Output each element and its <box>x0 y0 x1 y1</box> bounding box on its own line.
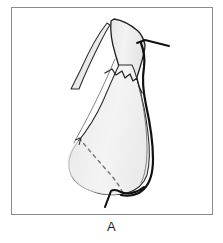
secondary-flap-shape <box>71 23 110 89</box>
anatomical-flap-illustration <box>11 7 213 215</box>
figure-panel <box>11 7 213 215</box>
figure-caption-label: A <box>0 219 223 235</box>
